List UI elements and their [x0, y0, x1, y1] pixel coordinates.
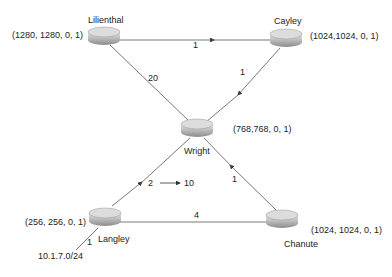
router-icon-wright — [181, 119, 213, 137]
router-icon-lilienthal — [88, 27, 120, 45]
router-name-cayley: Cayley — [274, 16, 302, 26]
router-coords-cayley: (1024,1024, 0, 1) — [310, 31, 379, 41]
cost-chanute-wright: 1 — [232, 174, 237, 184]
router-coords-wright: (768,768, 0, 1) — [233, 124, 292, 134]
link-lilienthal-wright — [110, 45, 190, 122]
router-coords-lilienthal: (1280, 1280, 0, 1) — [12, 30, 83, 40]
router-name-chanute: Chanute — [284, 239, 318, 249]
cost-cayley-wright: 1 — [240, 67, 245, 77]
router-name-langley: Langley — [98, 234, 130, 244]
router-coords-chanute: (1024, 1024, 0, 1) — [311, 225, 382, 235]
cost-lilienthal-wright: 20 — [148, 73, 158, 83]
link-chanute-wright — [230, 165, 276, 210]
link-langley-wright — [112, 182, 142, 206]
router-icon-cayley — [270, 29, 302, 47]
router-coords-langley: (256, 256, 0, 1) — [25, 217, 86, 227]
cost-result: 10 — [184, 178, 194, 188]
cost-lilienthal-cayley: 1 — [193, 40, 198, 50]
router-icon-langley — [89, 208, 121, 226]
cost-langley-chanute: 4 — [194, 210, 199, 220]
router-name-wright: Wright — [184, 146, 210, 156]
cost-langley-stub: 1 — [87, 237, 92, 247]
network-label: 10.1.7.0/24 — [38, 251, 83, 261]
cost-langley-wright: 2 — [148, 178, 153, 188]
router-icon-chanute — [266, 210, 298, 228]
router-name-lilienthal: Lilienthal — [88, 15, 124, 25]
